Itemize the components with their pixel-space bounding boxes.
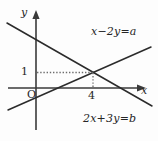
y-axis-arrowhead (32, 10, 39, 19)
x-tick-label-4: 4 (88, 90, 95, 101)
equation-label-line-a: x−2y=a (91, 26, 137, 37)
equation-label-line-b: 2x+3y=b (83, 113, 136, 124)
origin-label: O (27, 89, 36, 100)
y-axis-label: y (21, 7, 27, 18)
y-axis (32, 10, 39, 130)
x-axis-label: x (141, 85, 147, 96)
y-tick-label-1: 1 (21, 66, 28, 77)
graph-figure: y x O 1 4 x−2y=a 2x+3y=b (0, 0, 158, 141)
